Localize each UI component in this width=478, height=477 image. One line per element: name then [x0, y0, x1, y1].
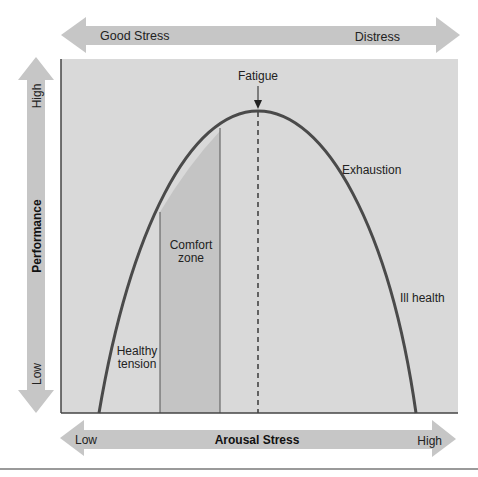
- healthy-tension-label-line2: tension: [118, 357, 157, 371]
- good-stress-label: Good Stress: [100, 29, 169, 43]
- comfort-zone-label-line2: zone: [178, 251, 204, 265]
- distress-label: Distress: [355, 30, 400, 44]
- arousal-high-label: High: [417, 434, 442, 448]
- ill-health-label: Ill health: [400, 291, 445, 305]
- performance-axis-title: Performance: [30, 199, 44, 273]
- plot-area: Fatigue Exhaustion Ill health Comfort zo…: [61, 59, 458, 413]
- exhaustion-label: Exhaustion: [342, 163, 401, 177]
- arousal-stress-axis-title: Arousal Stress: [215, 433, 300, 447]
- performance-high-label: High: [30, 84, 44, 109]
- stress-performance-diagram: Good Stress Distress High Performance Lo…: [0, 0, 478, 477]
- performance-low-label: Low: [30, 363, 44, 385]
- top-arrow: Good Stress Distress: [61, 17, 460, 53]
- comfort-zone-label-line1: Comfort: [170, 238, 213, 252]
- healthy-tension-label-line1: Healthy: [117, 344, 158, 358]
- fatigue-label: Fatigue: [238, 69, 278, 83]
- bottom-arrow: Low Arousal Stress High: [60, 420, 456, 457]
- arousal-low-label: Low: [75, 433, 97, 447]
- left-arrow: High Performance Low: [18, 57, 54, 413]
